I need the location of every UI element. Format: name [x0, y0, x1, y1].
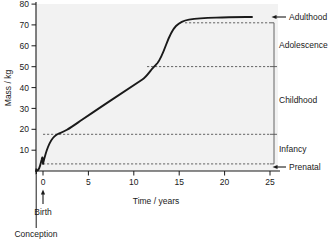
- x-tick-label-10: 10: [129, 177, 139, 187]
- x-axis-title: Time / years: [133, 196, 179, 206]
- x-tick-label-5: 5: [86, 177, 91, 187]
- x-tick-label-0: 0: [41, 177, 46, 187]
- birth-label: Birth: [34, 207, 52, 217]
- plot-background: [36, 4, 278, 171]
- y-tick-label-60: 60: [20, 41, 30, 51]
- y-tick-label-40: 40: [20, 83, 30, 93]
- x-tick-label-20: 20: [220, 177, 230, 187]
- conception-label: Conception: [14, 229, 57, 239]
- stage-label-prenatal: Prenatal: [289, 162, 321, 172]
- y-axis-title: Mass / kg: [3, 70, 13, 107]
- y-axis-ticks: [32, 4, 37, 150]
- stage-label-adolescence: Adolescence: [279, 40, 328, 50]
- birth-arrow-icon: [41, 190, 45, 205]
- x-tick-label-15: 15: [174, 177, 184, 187]
- y-tick-label-70: 70: [20, 20, 30, 30]
- y-tick-label-30: 30: [20, 104, 30, 114]
- y-tick-label-50: 50: [20, 62, 30, 72]
- x-axis-ticks: [43, 171, 270, 176]
- y-tick-label-80: 80: [20, 0, 30, 9]
- growth-curve-chart: 80 70 60 50 40 30 20 10 Mass / kg 0 5 10…: [0, 0, 335, 245]
- y-tick-label-20: 20: [20, 124, 30, 134]
- stage-label-adulthood: Adulthood: [289, 12, 328, 22]
- stage-label-infancy: Infancy: [279, 144, 307, 154]
- y-tick-label-10: 10: [20, 145, 30, 155]
- x-tick-label-25: 25: [265, 177, 275, 187]
- stage-label-childhood: Childhood: [279, 95, 318, 105]
